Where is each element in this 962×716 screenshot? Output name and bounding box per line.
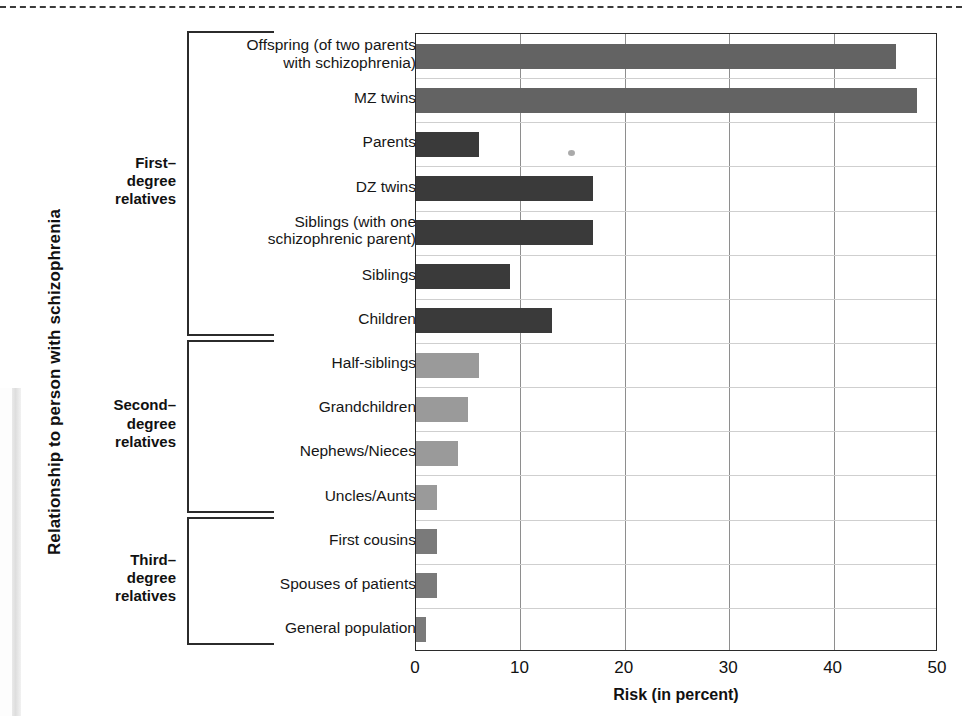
category-label-5: Siblings [190, 266, 416, 284]
bar-nephews-nieces [416, 441, 458, 466]
bar-spouses-of-patients [416, 573, 437, 598]
gridline-row [416, 299, 936, 300]
gridline-x-20 [625, 34, 626, 650]
category-label-line1: Grandchildren [190, 398, 416, 416]
gridline-row [416, 564, 936, 565]
x-tick-40: 40 [813, 658, 853, 678]
group-name-line3: relatives [58, 433, 176, 451]
category-label-line1: General population [190, 619, 416, 637]
group-name-2: Second–degreerelatives [58, 396, 176, 451]
category-label-1: MZ twins [190, 89, 416, 107]
category-label-13: General population [190, 619, 416, 637]
group-name-line2: degree [58, 172, 176, 190]
category-label-line1: Half-siblings [190, 354, 416, 372]
page-cut-dashed-rule [0, 6, 962, 8]
category-label-7: Half-siblings [190, 354, 416, 372]
bar-siblings-with-one-schizophrenic-parent [416, 220, 593, 245]
scan-edge-shadow [11, 388, 21, 716]
x-tick-30: 30 [708, 658, 748, 678]
bar-first-cousins [416, 529, 437, 554]
category-label-4: Siblings (with oneschizophrenic parent) [190, 213, 416, 248]
bar-uncles-aunts [416, 485, 437, 510]
x-axis-title: Risk (in percent) [415, 686, 937, 704]
category-label-line1: Parents [190, 133, 416, 151]
bar-siblings [416, 264, 510, 289]
bar-parents [416, 132, 479, 157]
gridline-row [416, 211, 936, 212]
gridline-row [416, 78, 936, 79]
gridline-row [416, 387, 936, 388]
gridline-x-30 [729, 34, 730, 650]
category-label-0: Offspring (of two parentswith schizophre… [190, 36, 416, 71]
bar-offspring-of-two-parents-with-schizophrenia [416, 44, 896, 69]
category-label-line1: First cousins [190, 531, 416, 549]
gridline-x-40 [834, 34, 835, 650]
category-label-column: Offspring (of two parentswith schizophre… [190, 0, 416, 716]
dust-speck-artifact [568, 150, 575, 156]
group-name-line2: degree [58, 569, 176, 587]
plot-area [415, 33, 937, 651]
category-label-line2: schizophrenic parent) [190, 230, 416, 248]
gridline-row [416, 343, 936, 344]
group-name-line3: relatives [58, 190, 176, 208]
bar-half-siblings [416, 353, 479, 378]
bar-grandchildren [416, 397, 468, 422]
category-label-line1: Siblings (with one [190, 213, 416, 231]
gridline-row [416, 475, 936, 476]
bar-mz-twins [416, 88, 917, 113]
group-name-line1: Third– [58, 551, 176, 569]
category-label-line1: Spouses of patients [190, 575, 416, 593]
category-label-line1: Uncles/Aunts [190, 487, 416, 505]
group-name-3: Third–degreerelatives [58, 551, 176, 606]
scan-edge-highlight [0, 388, 12, 716]
category-label-3: DZ twins [190, 178, 416, 196]
category-label-line1: DZ twins [190, 178, 416, 196]
group-name-line1: Second– [58, 396, 176, 414]
gridline-row [416, 608, 936, 609]
category-label-8: Grandchildren [190, 398, 416, 416]
x-tick-50: 50 [917, 658, 957, 678]
gridline-row [416, 122, 936, 123]
category-label-10: Uncles/Aunts [190, 487, 416, 505]
category-label-line1: Offspring (of two parents [190, 36, 416, 54]
group-name-line3: relatives [58, 587, 176, 605]
category-label-line1: Siblings [190, 266, 416, 284]
category-label-9: Nephews/Nieces [190, 442, 416, 460]
group-name-1: First–degreerelatives [58, 154, 176, 209]
category-label-line1: MZ twins [190, 89, 416, 107]
group-name-line2: degree [58, 415, 176, 433]
group-name-line1: First– [58, 154, 176, 172]
category-label-line2: with schizophrenia) [190, 54, 416, 72]
gridline-x-10 [520, 34, 521, 650]
category-label-6: Children [190, 310, 416, 328]
x-tick-10: 10 [499, 658, 539, 678]
gridline-row [416, 520, 936, 521]
x-tick-0: 0 [395, 658, 435, 678]
x-tick-20: 20 [604, 658, 644, 678]
category-label-line1: Nephews/Nieces [190, 442, 416, 460]
category-label-2: Parents [190, 133, 416, 151]
bar-general-population [416, 617, 426, 642]
category-label-line1: Children [190, 310, 416, 328]
category-label-11: First cousins [190, 531, 416, 549]
gridline-row [416, 431, 936, 432]
category-label-12: Spouses of patients [190, 575, 416, 593]
bar-children [416, 308, 552, 333]
gridline-row [416, 255, 936, 256]
bar-dz-twins [416, 176, 593, 201]
gridline-row [416, 166, 936, 167]
